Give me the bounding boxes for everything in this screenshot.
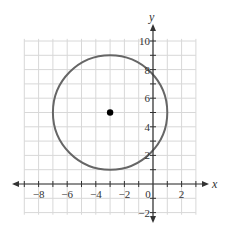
x-tick-label: −6	[61, 188, 73, 200]
y-tick-label: 4	[145, 121, 151, 133]
y-axis-up-arrow-icon	[150, 24, 156, 31]
x-axis-right-arrow-icon	[202, 181, 209, 187]
y-tick-label: −2	[138, 207, 150, 219]
y-axis-down-arrow-icon	[150, 216, 156, 223]
y-tick-label: 6	[145, 92, 151, 104]
x-axis-left-arrow-icon	[12, 181, 19, 187]
y-tick-label: 10	[139, 35, 151, 47]
y-tick-label: 2	[145, 149, 151, 161]
grid	[24, 39, 196, 215]
center-point	[107, 109, 113, 115]
coordinate-plane: −8−6−4−202−2246810xy	[0, 0, 230, 234]
y-tick-label: 8	[145, 64, 151, 76]
x-tick-label: −8	[33, 188, 45, 200]
x-tick-label: −4	[90, 188, 102, 200]
x-axis-label: x	[211, 177, 218, 191]
y-axis-label: y	[148, 10, 155, 24]
x-tick-label: 2	[179, 188, 185, 200]
x-tick-label: −2	[119, 188, 131, 200]
x-tick-label: 0	[145, 188, 151, 200]
